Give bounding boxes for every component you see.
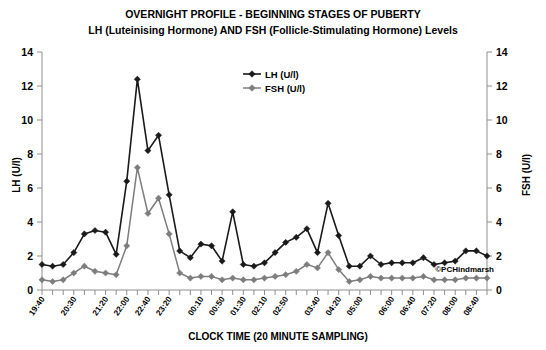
y-axis-left-tick-label: 0 <box>27 284 33 296</box>
legend-label: FSH (U/l) <box>265 83 305 94</box>
y-axis-left-title: LH (U/l) <box>11 157 22 193</box>
y-axis-right-tick-label: 8 <box>496 148 502 160</box>
chart-title: OVERNIGHT PROFILE - BEGINNING STAGES OF … <box>125 8 421 20</box>
y-axis-right-tick-label: 0 <box>496 284 502 296</box>
y-axis-right-tick-label: 6 <box>496 182 502 194</box>
overnight-hormone-profile-chart: OVERNIGHT PROFILE - BEGINNING STAGES OF … <box>0 0 546 350</box>
legend-label: LH (U/l) <box>265 69 299 80</box>
y-axis-left-tick-label: 4 <box>27 216 33 228</box>
chart-subtitle: LH (Luteinising Hormone) AND FSH (Follic… <box>88 24 458 36</box>
y-axis-right-tick-label: 10 <box>496 114 508 126</box>
chart-background <box>0 0 546 350</box>
y-axis-left-tick-label: 14 <box>21 46 33 58</box>
y-axis-left-tick-label: 8 <box>27 148 33 160</box>
y-axis-left-tick-label: 2 <box>27 250 33 262</box>
y-axis-right-tick-label: 14 <box>496 46 508 58</box>
y-axis-right-tick-label: 12 <box>496 80 508 92</box>
y-axis-left-tick-label: 6 <box>27 182 33 194</box>
y-axis-left-tick-label: 12 <box>21 80 33 92</box>
y-axis-right-tick-label: 4 <box>496 216 502 228</box>
x-axis-title: CLOCK TIME (20 MINUTE SAMPLING) <box>188 331 367 342</box>
chart-container: OVERNIGHT PROFILE - BEGINNING STAGES OF … <box>0 0 546 350</box>
y-axis-left-tick-label: 10 <box>21 114 33 126</box>
y-axis-right-tick-label: 2 <box>496 250 502 262</box>
credit-attribution: ©PCHindmarsh <box>435 265 494 274</box>
y-axis-right-title: FSH (U/l) <box>521 154 532 196</box>
